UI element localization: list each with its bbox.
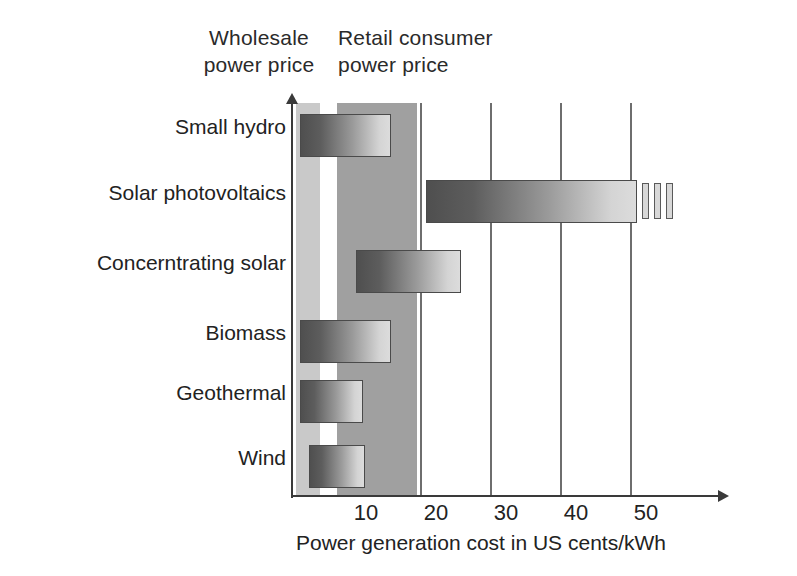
y-axis-arrow-icon [286,93,298,104]
x-tick-label-20: 20 [412,500,460,526]
y-label-geothermal: Geothermal [176,381,286,405]
x-axis-line [291,495,720,497]
y-label-wind: Wind [238,446,286,470]
bar-break-mark-3 [666,183,673,219]
band-wholesale-power-price [296,103,320,495]
gridline-50 [630,103,632,495]
x-tick-label-50: 50 [622,500,670,526]
bar-biomass [300,320,391,363]
x-tick-label-30: 30 [482,500,530,526]
bar-concerntrating-solar [356,250,461,293]
bar-wind [309,445,365,488]
gridline-20 [420,103,422,495]
bar-break-mark-2 [654,183,661,219]
y-axis-line [291,100,293,498]
band-retail-consumer-power-price [337,103,417,495]
annotation-retail-consumer-power-price: Retail consumer power price [338,24,528,78]
bar-solar-photovoltaics [426,180,637,223]
y-label-solar-photovoltaics: Solar photovoltaics [109,181,286,205]
y-label-biomass: Biomass [205,321,286,345]
x-tick-label-40: 40 [552,500,600,526]
bar-geothermal [300,380,363,423]
bar-break-mark-1 [642,183,649,219]
gridline-40 [560,103,562,495]
y-label-concerntrating-solar: Concerntrating solar [97,251,286,275]
y-label-small-hydro: Small hydro [175,115,286,139]
y-axis-category-labels: Small hydro Solar photovoltaics Concernt… [0,0,286,576]
gridline-30 [490,103,492,495]
chart-figure: Wholesale power price Retail consumer po… [0,0,797,576]
bar-small-hydro [300,114,391,157]
x-axis-arrow-icon [718,490,729,502]
x-tick-label-10: 10 [342,500,390,526]
plot-area [296,103,668,495]
x-axis-title: Power generation cost in US cents/kWh [241,531,721,555]
